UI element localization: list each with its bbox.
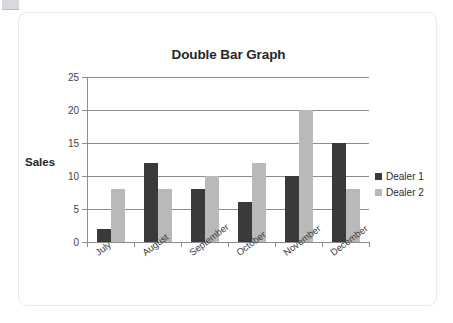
corner-artifact	[2, 0, 19, 10]
x-axis-tick	[87, 242, 88, 247]
x-axis-tick	[275, 242, 276, 247]
bar	[285, 176, 299, 242]
chart-card: Double Bar Graph Sales 0510152025 JulyAu…	[18, 12, 437, 306]
y-axis-tick-label: 5	[73, 204, 79, 215]
bar	[111, 189, 125, 242]
y-axis-tick	[82, 209, 87, 210]
gridline	[87, 143, 369, 144]
legend-item-label: Dealer 2	[386, 187, 424, 198]
bar	[191, 189, 205, 242]
y-axis-title: Sales	[25, 156, 55, 168]
y-axis-tick	[82, 176, 87, 177]
bar	[144, 163, 158, 242]
y-axis-tick-label: 25	[68, 72, 79, 83]
y-axis-tick-label: 15	[68, 138, 79, 149]
x-axis-tick	[369, 242, 370, 247]
legend-item-label: Dealer 1	[386, 171, 424, 182]
y-axis-tick	[82, 77, 87, 78]
plot-area: 0510152025 JulyAugustSeptemberOctoberNov…	[87, 77, 369, 242]
bar	[332, 143, 346, 242]
gridline	[87, 176, 369, 177]
x-axis-tick	[134, 242, 135, 247]
y-axis-tick	[82, 110, 87, 111]
y-axis-tick	[82, 143, 87, 144]
y-axis-tick-label: 10	[68, 171, 79, 182]
legend-swatch-icon	[375, 189, 382, 196]
y-axis-line	[87, 77, 88, 243]
legend-item[interactable]: Dealer 1	[375, 168, 424, 184]
x-axis-tick	[322, 242, 323, 247]
x-axis-tick	[228, 242, 229, 247]
gridline	[87, 209, 369, 210]
y-axis-tick-label: 20	[68, 105, 79, 116]
chart-legend: Dealer 1Dealer 2	[375, 168, 424, 200]
legend-swatch-icon	[375, 173, 382, 180]
gridline	[87, 77, 369, 78]
chart-title: Double Bar Graph	[19, 47, 438, 62]
legend-item[interactable]: Dealer 2	[375, 184, 424, 200]
x-axis-tick	[181, 242, 182, 247]
gridline	[87, 110, 369, 111]
y-axis-tick-label: 0	[73, 237, 79, 248]
bar	[299, 110, 313, 242]
